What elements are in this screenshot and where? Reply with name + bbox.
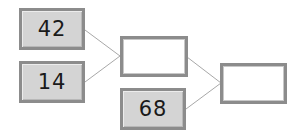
- number-box-14: 14: [19, 61, 85, 103]
- answer-box-final[interactable]: [220, 63, 287, 104]
- number-value: 42: [38, 19, 67, 40]
- connector-b-c: [85, 56, 120, 82]
- connector-d-e: [186, 83, 221, 109]
- connector-c-e: [187, 57, 221, 83]
- number-tree-diagram: 42 14 68: [0, 0, 301, 137]
- connector-a-c: [85, 30, 120, 56]
- number-value: 68: [139, 99, 168, 120]
- answer-box-middle[interactable]: [120, 36, 188, 77]
- number-box-42: 42: [19, 8, 85, 50]
- number-box-68: 68: [120, 88, 186, 130]
- number-value: 14: [38, 72, 67, 93]
